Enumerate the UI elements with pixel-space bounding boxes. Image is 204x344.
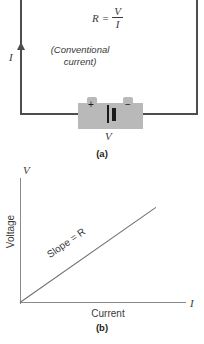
formula-numerator: V bbox=[112, 6, 123, 17]
formula-equals-sign: = bbox=[102, 12, 109, 24]
conventional-current-note-line2: current) bbox=[64, 56, 97, 67]
battery-cell-short-plate-icon bbox=[112, 108, 116, 121]
graph-y-axis-title: Voltage bbox=[5, 202, 16, 262]
graph-data-line bbox=[20, 207, 157, 303]
graph-y-axis-symbol: V bbox=[23, 165, 30, 176]
panel-a-caption: (a) bbox=[0, 148, 204, 159]
current-direction-arrow-icon bbox=[17, 42, 25, 50]
battery-minus-sign: − bbox=[125, 100, 131, 110]
ohms-law-formula: R = V I bbox=[92, 6, 123, 29]
conventional-current-note-line1: (Conventional bbox=[51, 44, 110, 55]
circuit-diagram-panel: I (Conventional current) R = V I + − V (… bbox=[0, 0, 204, 168]
graph-y-axis bbox=[20, 178, 21, 304]
current-symbol-label: I bbox=[9, 52, 13, 63]
figure-ohms-law: I (Conventional current) R = V I + − V (… bbox=[0, 0, 204, 344]
battery-voltage-symbol-label: V bbox=[105, 131, 112, 142]
graph-x-axis bbox=[20, 302, 186, 303]
voltage-current-graph-panel: V I Voltage Current Slope = R (b) bbox=[0, 164, 204, 344]
circuit-wire-left bbox=[20, 0, 22, 114]
conventional-current-note: (Conventional current) bbox=[32, 44, 128, 67]
graph-x-axis-symbol: I bbox=[190, 298, 194, 309]
panel-b-caption: (b) bbox=[0, 322, 204, 333]
battery-cell-long-plate-icon bbox=[107, 105, 109, 123]
graph-slope-annotation: Slope = R bbox=[45, 226, 88, 260]
graph-x-axis-title: Current bbox=[48, 308, 168, 319]
battery-plus-sign: + bbox=[88, 100, 94, 110]
formula-fraction: V I bbox=[112, 6, 123, 29]
formula-denominator: I bbox=[114, 18, 122, 29]
formula-resistance-symbol: R bbox=[92, 12, 99, 24]
circuit-wire-right bbox=[196, 0, 198, 114]
